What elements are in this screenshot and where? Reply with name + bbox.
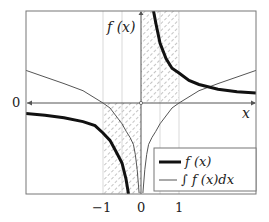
x-tick-m1: −1 <box>92 200 111 215</box>
x-tick-1: 1 <box>175 200 183 215</box>
legend-f-label: f (x) <box>184 154 211 169</box>
legend: f (x) ∫ f (x)dx <box>154 148 256 191</box>
y-tick-0: 0 <box>12 95 20 110</box>
origin-marker-icon <box>139 101 142 104</box>
x-tick-0: 0 <box>137 200 145 215</box>
chart: f (x) x 0 −1 0 1 f (x) ∫ f (x)dx <box>0 0 269 222</box>
x-axis-label: x <box>242 105 250 121</box>
legend-int-label: ∫ f (x)dx <box>181 172 235 187</box>
y-axis-label: f (x) <box>106 19 135 35</box>
